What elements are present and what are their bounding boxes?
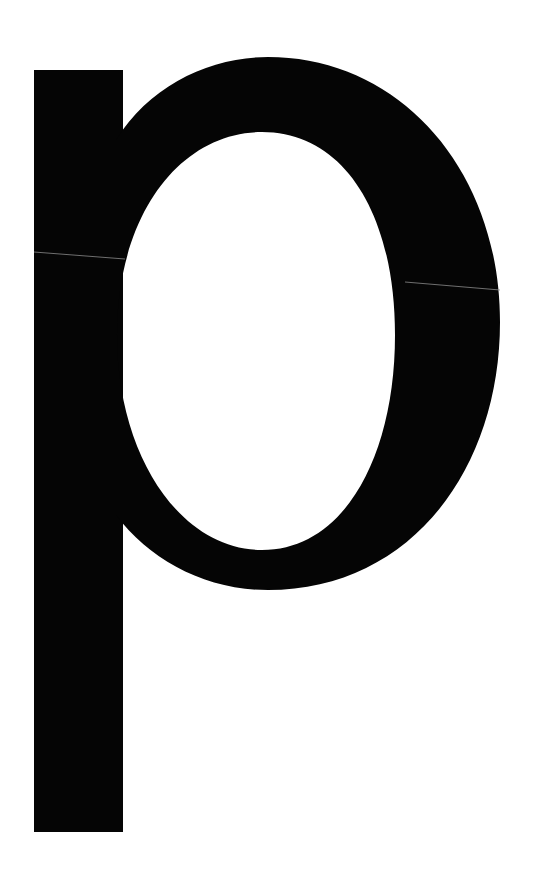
glyph-bowl bbox=[116, 57, 500, 590]
glyph-stem bbox=[34, 70, 123, 832]
letter-p-glyph bbox=[0, 0, 537, 883]
